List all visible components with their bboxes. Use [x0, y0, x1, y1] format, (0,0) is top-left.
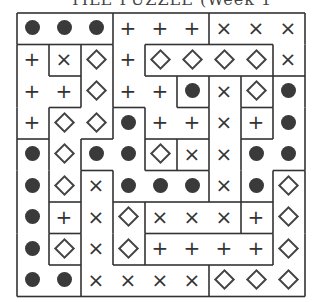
grid-cell[interactable]	[176, 44, 208, 76]
grid-cell[interactable]	[272, 201, 304, 233]
grid-cell[interactable]: ×	[240, 12, 272, 44]
dot-icon	[25, 20, 40, 35]
cross-icon: ×	[248, 18, 265, 38]
grid-cell[interactable]	[144, 138, 176, 170]
grid-cell[interactable]	[144, 170, 176, 202]
grid-cell[interactable]: ×	[48, 44, 80, 76]
grid-cell[interactable]	[16, 138, 48, 170]
grid-cell[interactable]	[16, 201, 48, 233]
grid-cell[interactable]: +	[240, 233, 272, 265]
grid-cell[interactable]	[176, 170, 208, 202]
dot-icon	[121, 146, 136, 161]
grid-cell[interactable]: ×	[80, 201, 112, 233]
grid-cell[interactable]	[16, 233, 48, 265]
grid-cell[interactable]: +	[48, 75, 80, 107]
dot-icon	[25, 146, 40, 161]
grid-cell[interactable]	[48, 170, 80, 202]
grid-cell[interactable]: ×	[144, 201, 176, 233]
grid-cell[interactable]: ×	[272, 44, 304, 76]
grid-cell[interactable]	[48, 12, 80, 44]
grid-cell[interactable]: +	[240, 201, 272, 233]
grid-cell[interactable]: ×	[144, 264, 176, 296]
diamond-icon	[149, 49, 170, 70]
grid-cell[interactable]	[208, 44, 240, 76]
grid-cell[interactable]	[48, 233, 80, 265]
grid-cell[interactable]	[80, 75, 112, 107]
grid-cell[interactable]: +	[16, 107, 48, 139]
grid-cell[interactable]: +	[176, 12, 208, 44]
grid-cell[interactable]	[80, 138, 112, 170]
cross-icon: ×	[216, 144, 233, 164]
grid-cell[interactable]: +	[144, 75, 176, 107]
grid-cell[interactable]	[208, 264, 240, 296]
grid-cell[interactable]	[112, 107, 144, 139]
grid-cell[interactable]	[112, 233, 144, 265]
grid-cell[interactable]: ×	[208, 75, 240, 107]
grid-cell[interactable]	[240, 138, 272, 170]
grid-cell[interactable]	[48, 264, 80, 296]
grid-cell[interactable]	[16, 264, 48, 296]
grid-cell[interactable]	[16, 12, 48, 44]
grid-cell[interactable]: +	[240, 107, 272, 139]
grid-cell[interactable]	[272, 138, 304, 170]
cross-icon: ×	[280, 18, 297, 38]
grid-cell[interactable]: ×	[208, 12, 240, 44]
grid-cell[interactable]	[48, 107, 80, 139]
cross-icon: ×	[88, 270, 105, 290]
grid-cell[interactable]: +	[48, 201, 80, 233]
grid-cell[interactable]: ×	[208, 138, 240, 170]
diamond-icon	[277, 175, 298, 196]
grid-cell[interactable]: +	[16, 44, 48, 76]
grid-cell[interactable]	[272, 75, 304, 107]
grid-cell[interactable]: ×	[80, 264, 112, 296]
grid-cell[interactable]	[112, 201, 144, 233]
grid-cell[interactable]	[240, 75, 272, 107]
grid-cell[interactable]	[240, 264, 272, 296]
grid-cell[interactable]: ×	[272, 12, 304, 44]
grid-cell[interactable]	[144, 44, 176, 76]
plus-icon: +	[248, 112, 265, 132]
grid-cell[interactable]: ×	[208, 107, 240, 139]
dot-icon	[25, 241, 40, 256]
grid-cell[interactable]	[80, 107, 112, 139]
grid-cell[interactable]	[272, 264, 304, 296]
grid-cell[interactable]: +	[112, 44, 144, 76]
grid-cell[interactable]: +	[112, 75, 144, 107]
grid-cell[interactable]: +	[112, 12, 144, 44]
grid-cell[interactable]	[240, 170, 272, 202]
grid-cell[interactable]	[176, 75, 208, 107]
cross-icon: ×	[120, 270, 137, 290]
diamond-icon	[149, 143, 170, 164]
grid-cell[interactable]: ×	[80, 233, 112, 265]
grid-cell[interactable]	[272, 233, 304, 265]
grid-cell[interactable]: ×	[176, 201, 208, 233]
dot-icon	[25, 178, 40, 193]
grid-cell[interactable]	[272, 170, 304, 202]
grid-cell[interactable]	[48, 138, 80, 170]
grid-cell[interactable]: ×	[208, 170, 240, 202]
grid-cell[interactable]: +	[144, 107, 176, 139]
cross-icon: ×	[56, 49, 73, 69]
grid-cell[interactable]	[80, 12, 112, 44]
grid-cell[interactable]	[80, 44, 112, 76]
cropped-title: TILE PUZZLE (Week 1	[70, 0, 272, 9]
grid-cell[interactable]: +	[176, 107, 208, 139]
grid-cell[interactable]: +	[176, 233, 208, 265]
grid-cell[interactable]	[240, 44, 272, 76]
grid-cell[interactable]	[272, 107, 304, 139]
grid-cell[interactable]: +	[16, 75, 48, 107]
diamond-icon	[213, 269, 234, 290]
diamond-icon	[277, 269, 298, 290]
grid-cell[interactable]: ×	[176, 138, 208, 170]
grid-cell[interactable]	[112, 138, 144, 170]
grid-cell[interactable]: ×	[176, 264, 208, 296]
grid-cell[interactable]	[16, 170, 48, 202]
grid-cell[interactable]: +	[144, 12, 176, 44]
grid-cell[interactable]: ×	[208, 201, 240, 233]
grid-cell[interactable]: ×	[80, 170, 112, 202]
grid-cell[interactable]	[112, 170, 144, 202]
grid-cell[interactable]: +	[208, 233, 240, 265]
grid-cell[interactable]: +	[144, 233, 176, 265]
grid-cell[interactable]: ×	[112, 264, 144, 296]
plus-icon: +	[184, 112, 201, 132]
